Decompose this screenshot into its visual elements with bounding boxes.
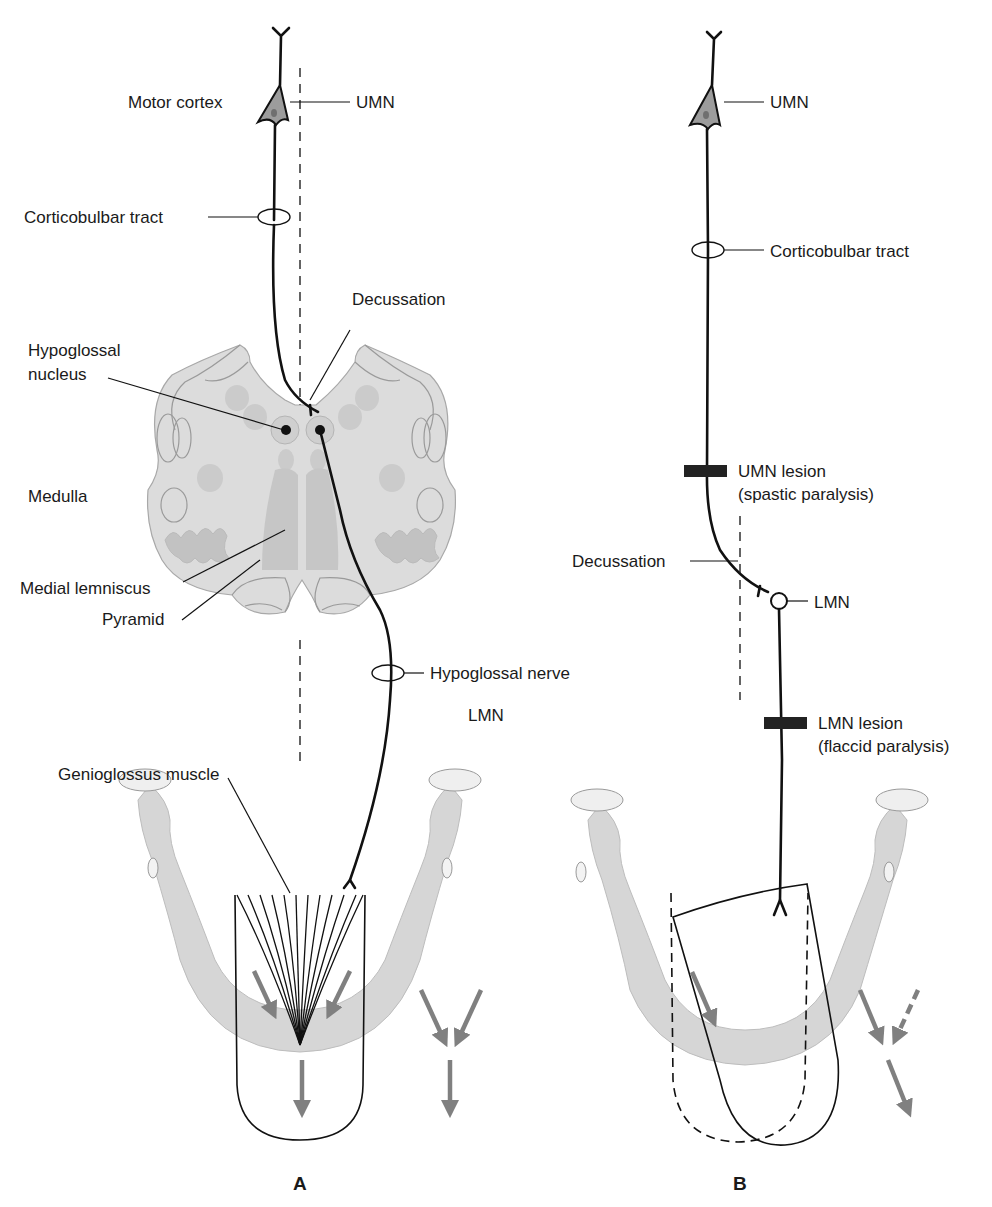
- label-lmn-lesion-2: (flaccid paralysis): [818, 737, 949, 756]
- label-hypoglossal-nucleus-2: nucleus: [28, 365, 87, 384]
- panel-label-a: A: [293, 1173, 307, 1194]
- label-umn-b: UMN: [770, 93, 809, 112]
- label-medulla: Medulla: [28, 487, 88, 506]
- mandible-a: [119, 769, 481, 1052]
- label-umn-lesion-2: (spastic paralysis): [738, 485, 874, 504]
- label-decussation-a: Decussation: [352, 290, 446, 309]
- corticobulbar-axon-b: [707, 129, 768, 592]
- label-decussation-b: Decussation: [572, 552, 666, 571]
- medulla-cross-section: [148, 345, 456, 614]
- label-genioglossus-muscle: Genioglossus muscle: [58, 765, 220, 784]
- hypoglossal-axon-b: [779, 609, 782, 900]
- label-lmn-b: LMN: [814, 593, 850, 612]
- label-corticobulbar-tract-b: Corticobulbar tract: [770, 242, 909, 261]
- umn-lesion-marker: [684, 465, 727, 477]
- lmn-lesion-marker: [764, 717, 807, 729]
- diagram-canvas: Corticobulbar tract Motor cortex UMN: [0, 0, 992, 1207]
- label-medial-lemniscus: Medial lemniscus: [20, 579, 150, 598]
- label-umn-lesion-1: UMN lesion: [738, 462, 826, 481]
- umn-neuron-icon: [258, 28, 289, 220]
- label-lmn-lesion-1: LMN lesion: [818, 714, 903, 733]
- label-umn-a: UMN: [356, 93, 395, 112]
- label-hypoglossal-nucleus-1: Hypoglossal: [28, 341, 121, 360]
- label-pyramid: Pyramid: [102, 610, 164, 629]
- hypoglossal-nerve-marker-icon: [372, 665, 404, 681]
- panel-label-b: B: [733, 1173, 747, 1194]
- corticobulbar-axon-a: [273, 225, 318, 412]
- panel-b: UMN Corticobulbar tract UMN lesion (spas…: [571, 32, 949, 1194]
- lmn-cell-icon: [771, 593, 787, 609]
- label-hypoglossal-nerve: Hypoglossal nerve: [430, 664, 570, 683]
- label-corticobulbar-tract: Corticobulbar tract: [24, 208, 163, 227]
- panel-a: Corticobulbar tract Motor cortex UMN: [20, 28, 570, 1194]
- label-lmn-a: LMN: [468, 706, 504, 725]
- umn-neuron-icon-b: [690, 32, 721, 129]
- label-motor-cortex: Motor cortex: [128, 93, 223, 112]
